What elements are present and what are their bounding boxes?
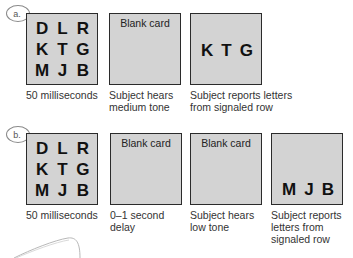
pencil-curve-mark [0,0,353,258]
